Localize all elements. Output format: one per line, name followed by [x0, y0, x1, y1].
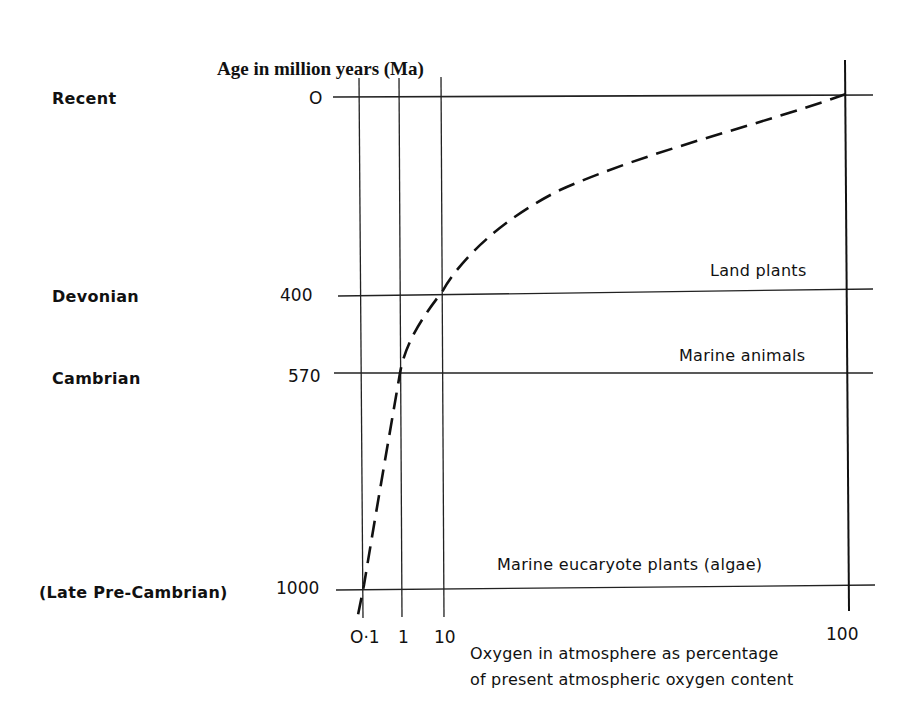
- y-tick-1000: 1000: [276, 578, 319, 598]
- gridline-age-0: [333, 95, 873, 97]
- x-tick-1: 1: [398, 627, 409, 647]
- chart-title: Age in million years (Ma): [217, 58, 424, 80]
- y-tick-570: 570: [288, 366, 320, 386]
- x-tick-100: 100: [826, 624, 858, 644]
- gridline-oxygen-10: [441, 77, 444, 617]
- era-label-cambrian: Cambrian: [52, 369, 141, 388]
- event-marine-eucaryote-plants: Marine eucaryote plants (algae): [497, 555, 762, 574]
- era-label-late-precambrian: (Late Pre-Cambrian): [39, 583, 228, 602]
- event-marine-animals: Marine animals: [679, 346, 805, 365]
- era-label-recent: Recent: [52, 89, 116, 108]
- era-label-devonian: Devonian: [52, 287, 139, 306]
- gridline-oxygen-0.1: [359, 78, 363, 618]
- gridline-age-400: [338, 289, 873, 296]
- y-tick-0: O: [309, 88, 322, 108]
- gridline-oxygen-100: [845, 60, 849, 611]
- x-tick-0.1: O·1: [350, 627, 380, 647]
- x-tick-10: 10: [434, 627, 456, 647]
- y-tick-400: 400: [280, 285, 312, 305]
- x-axis-label-line2: of present atmospheric oxygen content: [470, 667, 793, 693]
- gridline-age-1000: [336, 585, 875, 590]
- event-land-plants: Land plants: [710, 261, 807, 280]
- x-axis-label: Oxygen in atmosphere as percentage of pr…: [470, 641, 793, 693]
- x-axis-label-line1: Oxygen in atmosphere as percentage: [470, 641, 793, 667]
- gridline-oxygen-1: [399, 78, 402, 617]
